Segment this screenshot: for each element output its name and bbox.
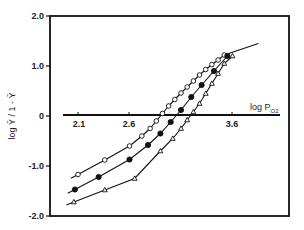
y-tick-label: 1.0 xyxy=(31,61,44,71)
y-axis-title: log Ȳ / 1 - Ȳ xyxy=(7,92,17,139)
triangle-marker xyxy=(230,53,235,57)
open-circle-marker xyxy=(140,134,145,139)
filled-circle-marker xyxy=(72,187,77,192)
filled-circle-marker xyxy=(189,94,194,99)
open-circle-marker xyxy=(216,58,221,63)
x-tick-label: 3.6 xyxy=(226,119,239,129)
open-circle-marker xyxy=(203,67,208,72)
chart: 2.0 1.0 0 -1.0 -2.0 log Ȳ / 1 - Ȳ 2.1 2.… xyxy=(0,0,304,230)
open-circle-marker xyxy=(148,126,153,131)
filled-circle-marker xyxy=(199,82,204,87)
open-circle-marker xyxy=(179,91,184,96)
filled-circle-marker xyxy=(225,53,230,58)
open-circle-marker xyxy=(127,144,132,149)
y-tick-label: -2.0 xyxy=(28,211,44,221)
triangle-marker xyxy=(102,187,107,191)
open-circle-marker xyxy=(76,172,81,177)
open-circle-marker xyxy=(197,73,202,78)
x-tick-label: 2.6 xyxy=(123,119,136,129)
y-tick-label: 0 xyxy=(39,111,44,121)
fit-curve xyxy=(71,44,258,179)
filled-circle-marker xyxy=(145,142,150,147)
x-axis-title: log PO2 xyxy=(250,102,279,114)
open-circle-marker xyxy=(154,119,159,124)
x-axis xyxy=(63,112,280,115)
open-circle-marker xyxy=(210,62,215,67)
open-circle-marker xyxy=(185,85,190,90)
plot-frame xyxy=(50,16,289,216)
open-circle-marker xyxy=(166,104,171,109)
fit-curve xyxy=(68,56,228,193)
y-tick-label: -1.0 xyxy=(28,161,44,171)
open-circle-marker xyxy=(102,158,107,163)
open-circle-marker xyxy=(173,97,178,102)
open-circle-marker xyxy=(191,79,196,84)
filled-circle-marker xyxy=(168,119,173,124)
open-circle-marker xyxy=(160,111,165,116)
x-tick-label: 2.1 xyxy=(73,119,86,129)
triangle-marker xyxy=(71,199,76,203)
filled-circle-marker xyxy=(211,68,216,73)
y-tick-label: 2.0 xyxy=(31,11,44,21)
filled-circle-marker xyxy=(96,174,101,179)
filled-circle-marker xyxy=(178,107,183,112)
filled-circle-marker xyxy=(158,131,163,136)
filled-circle-marker xyxy=(127,157,132,162)
